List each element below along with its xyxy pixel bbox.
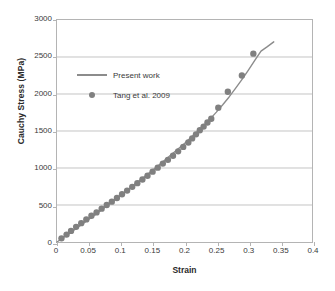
y-tick-mark — [53, 132, 57, 133]
y-tick-label: 0 — [4, 239, 52, 247]
data-point — [73, 224, 79, 230]
y-tick-mark — [53, 20, 57, 21]
legend-line-swatch — [75, 74, 109, 76]
data-point — [139, 176, 145, 182]
data-point — [114, 195, 120, 201]
chart-series-svg — [57, 20, 312, 242]
legend-label-present-work: Present work — [113, 71, 160, 80]
y-tick-label: 3000 — [4, 15, 52, 23]
data-point — [109, 199, 115, 205]
x-tick-label: 0.4 — [293, 247, 333, 255]
y-tick-label: 1000 — [4, 164, 52, 172]
y-tick-label: 1500 — [4, 127, 52, 135]
data-point — [68, 228, 74, 234]
data-point — [78, 220, 84, 226]
y-tick-label: 500 — [4, 202, 52, 210]
data-point — [160, 160, 166, 166]
legend-dot-swatch — [75, 92, 109, 98]
y-tick-mark — [53, 207, 57, 208]
y-tick-label: 2000 — [4, 90, 52, 98]
data-point — [165, 157, 171, 163]
data-point — [93, 209, 99, 215]
y-tick-mark — [53, 169, 57, 170]
data-point — [250, 50, 256, 56]
data-point — [149, 169, 155, 175]
chart-legend: Present work Tang et al. 2009 — [75, 68, 170, 108]
data-point — [58, 235, 64, 241]
y-tick-mark — [53, 57, 57, 58]
data-point — [119, 191, 125, 197]
data-point — [225, 89, 231, 95]
data-point — [134, 180, 140, 186]
data-point — [155, 164, 161, 170]
data-point — [215, 105, 221, 111]
data-point — [175, 148, 181, 154]
data-point — [129, 184, 135, 190]
y-tick-mark — [53, 95, 57, 96]
plot-area: Present work Tang et al. 2009 — [56, 19, 313, 243]
data-point — [98, 206, 104, 212]
data-point — [83, 216, 89, 222]
x-axis-title: Strain — [56, 265, 313, 275]
data-point — [208, 116, 214, 122]
data-point — [239, 72, 245, 78]
legend-item-tang-2009: Tang et al. 2009 — [75, 88, 170, 102]
data-point — [144, 173, 150, 179]
figure-container: Cauchy Stress (MPa) 05001000150020002500… — [0, 0, 335, 291]
y-tick-label: 2500 — [4, 52, 52, 60]
legend-label-tang-2009: Tang et al. 2009 — [113, 91, 170, 100]
data-point — [124, 187, 130, 193]
data-point — [170, 153, 176, 159]
legend-item-present-work: Present work — [75, 68, 170, 82]
data-point — [180, 144, 186, 150]
